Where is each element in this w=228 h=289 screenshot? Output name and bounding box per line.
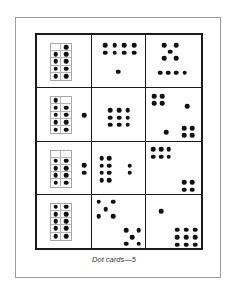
dot-icon	[64, 66, 69, 71]
ten-frame-cell	[61, 51, 71, 58]
dot-card-r2c2	[92, 88, 147, 141]
dot-icon	[168, 49, 173, 54]
dot-card-r4c1	[37, 195, 92, 248]
dot-icon	[152, 101, 157, 106]
ten-frame-cell	[51, 233, 61, 240]
dot-card-r4c3	[146, 195, 201, 248]
dot-icon	[100, 171, 105, 176]
dot-icon	[125, 115, 130, 120]
dot-icon	[174, 56, 179, 61]
dot-icon	[151, 154, 156, 159]
dot-icon	[107, 171, 112, 176]
dot-icon	[190, 133, 195, 138]
dot-icon	[166, 154, 171, 159]
dot-icon	[112, 50, 117, 55]
dot-icon	[107, 163, 112, 168]
dot-icon	[64, 158, 69, 163]
ten-frame-cell	[61, 172, 71, 179]
dot-icon	[103, 207, 108, 212]
dot-icon	[53, 98, 58, 103]
dot-icon	[127, 163, 132, 168]
dot-icon	[53, 52, 58, 57]
dot-icon	[166, 70, 171, 75]
dot-icon	[96, 199, 101, 204]
dot-icon	[175, 243, 180, 248]
dot-icon	[103, 43, 108, 48]
dot-icon	[64, 120, 69, 125]
dot-icon	[190, 187, 195, 192]
ten-frame-cell	[51, 73, 61, 80]
dot-icon	[64, 105, 69, 110]
dot-icon	[53, 226, 58, 231]
ten-frame-cell	[51, 179, 61, 186]
ten-frame-cell	[61, 73, 71, 80]
ten-frame-cell	[51, 126, 61, 133]
dot-icon	[53, 66, 58, 71]
dot-icon	[64, 234, 69, 239]
ten-frame-cell	[61, 158, 71, 165]
ten-frame-cell	[61, 165, 71, 172]
dot-icon	[96, 214, 101, 219]
dot-icon	[160, 94, 165, 99]
dot-icon	[182, 187, 187, 192]
dot-icon	[182, 70, 187, 75]
dot-card-r3c1	[37, 142, 92, 195]
ten-frame-cell	[61, 112, 71, 119]
dot-icon	[137, 228, 142, 233]
dot-icon	[175, 235, 180, 240]
ten-frame-cell	[51, 97, 61, 104]
dot-icon	[125, 108, 130, 113]
dot-icon	[111, 199, 116, 204]
dot-icon	[117, 108, 122, 113]
dot-icon	[159, 154, 164, 159]
dot-icon	[184, 243, 189, 248]
dot-icon	[160, 101, 165, 106]
dot-icon	[53, 212, 58, 217]
ten-frame-cell	[61, 233, 71, 240]
dot-icon	[64, 212, 69, 217]
ten-frame	[50, 43, 72, 81]
dot-icon	[64, 74, 69, 79]
dot-icon	[112, 43, 117, 48]
dot-icon	[193, 243, 198, 248]
ten-frame-cell	[61, 44, 71, 51]
dot-icon	[127, 171, 132, 176]
dot-icon	[64, 181, 69, 186]
dot-icon	[193, 235, 198, 240]
ten-frame	[50, 150, 72, 188]
ten-frame-cell	[61, 58, 71, 65]
dot-icon	[64, 45, 69, 50]
dot-icon	[117, 123, 122, 128]
dot-icon	[53, 234, 58, 239]
dot-icon	[53, 158, 58, 163]
dot-icon	[174, 70, 179, 75]
dot-card-r2c1	[37, 88, 92, 141]
dot-icon	[182, 133, 187, 138]
dot-card-r4c2	[92, 195, 147, 248]
dot-icon	[132, 50, 137, 55]
dot-icon	[117, 115, 122, 120]
dot-icon	[100, 163, 105, 168]
ten-frame-cell	[61, 151, 71, 158]
dot-icon	[122, 43, 127, 48]
ten-frame	[50, 96, 72, 134]
dot-icon	[193, 228, 198, 233]
dot-icon	[111, 214, 116, 219]
ten-frame-cell	[51, 211, 61, 218]
dot-icon	[53, 166, 58, 171]
ten-frame-cell	[51, 165, 61, 172]
dot-card-r3c3	[146, 142, 201, 195]
dot-icon	[174, 43, 179, 48]
dot-icon	[107, 156, 112, 161]
ten-frame-cell	[51, 218, 61, 225]
dot-icon	[166, 147, 171, 152]
caption: Dot cards—5	[0, 255, 228, 264]
dot-card-r1c2	[92, 35, 147, 88]
dot-icon	[53, 112, 58, 117]
ten-frame-cell	[61, 66, 71, 73]
dot-icon	[159, 147, 164, 152]
ten-frame-cell	[61, 119, 71, 126]
dot-icon	[82, 171, 87, 176]
dot-icon	[137, 241, 142, 246]
dot-icon	[130, 235, 135, 240]
